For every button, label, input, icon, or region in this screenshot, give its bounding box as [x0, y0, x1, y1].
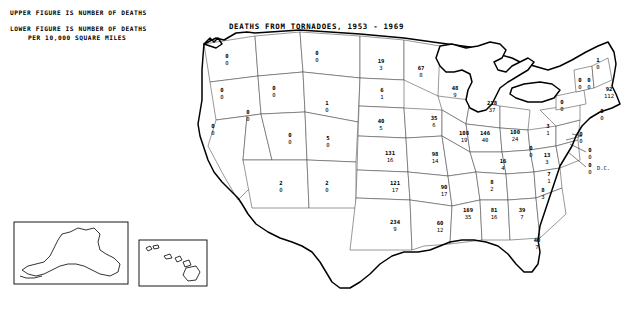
deaths-per-area-value: 5 [379, 125, 382, 131]
deaths-value: 16 [500, 158, 507, 164]
deaths-value: 2 [279, 180, 282, 186]
deaths-value: 108 [459, 130, 470, 136]
deaths-per-area-value: 6 [432, 122, 435, 128]
deaths-value: 100 [510, 129, 521, 135]
deaths-value: 35 [431, 115, 438, 121]
deaths-per-area-value: 12 [437, 227, 444, 233]
deaths-per-area-value: 2 [490, 186, 493, 192]
deaths-per-area-value: 0 [600, 115, 603, 121]
deaths-per-area-value: 19 [461, 137, 468, 143]
state-label-ct: 00 [600, 108, 604, 121]
state-label-ar: 9017 [441, 184, 448, 197]
deaths-per-area-value: 0 [220, 94, 223, 100]
deaths-per-area-value: 0 [560, 106, 563, 112]
deaths-per-area-value: 1 [546, 130, 549, 136]
deaths-value: 7 [547, 171, 550, 177]
deaths-per-area-value: 0 [579, 138, 582, 144]
dc-label: D.C. [597, 165, 610, 171]
deaths-per-area-value: 0 [325, 187, 328, 193]
deaths-value: 67 [418, 65, 425, 71]
deaths-per-area-value: 0 [272, 92, 275, 98]
deaths-value: 0 [588, 147, 592, 153]
deaths-per-area-value: 0 [596, 64, 599, 70]
deaths-per-area-value: 0 [326, 142, 329, 148]
deaths-value: 234 [390, 219, 401, 225]
deaths-per-area-value: 0 [325, 107, 328, 113]
state-label-mo: 9814 [432, 151, 439, 164]
deaths-per-area-value: 0 [588, 169, 591, 175]
deaths-per-area-value: 3 [545, 159, 548, 165]
deaths-value: 98 [432, 151, 439, 157]
map-svg: 0000000000001000202050193614051311612117… [0, 0, 633, 310]
state-label-wi: 489 [452, 85, 459, 98]
deaths-value: 40 [534, 237, 541, 243]
deaths-value: 169 [463, 207, 474, 213]
deaths-per-area-value: 0 [211, 130, 214, 136]
alaska-inset [14, 222, 128, 284]
deaths-per-area-value: 0 [588, 154, 591, 160]
deaths-per-area-value: 16 [491, 214, 498, 220]
deaths-per-area-value: 37 [489, 107, 496, 113]
deaths-per-area-value: 3 [379, 65, 382, 71]
deaths-value: 5 [326, 135, 329, 141]
deaths-value: 19 [378, 58, 385, 64]
deaths-per-area-value: 0 [587, 84, 590, 90]
deaths-per-area-value: 14 [432, 158, 439, 164]
deaths-per-area-value: 24 [512, 136, 519, 142]
deaths-per-area-value: 7 [535, 244, 538, 250]
state-label-la: 6012 [437, 220, 444, 233]
deaths-value: 0 [588, 162, 592, 168]
deaths-value: 90 [441, 184, 448, 190]
deaths-per-area-value: 112 [604, 93, 614, 99]
state-label-az: 20 [279, 180, 282, 193]
deaths-per-area-value: 35 [465, 214, 472, 220]
state-label-de: 00 [588, 147, 592, 160]
deaths-per-area-value: 40 [482, 137, 489, 143]
deaths-per-area-value: 0 [288, 139, 291, 145]
state-label-al: 8116 [491, 207, 498, 220]
deaths-per-area-value: 3 [541, 194, 544, 200]
state-boundaries [204, 32, 612, 250]
deaths-value: 40 [378, 118, 385, 124]
deaths-per-area-value: 1 [380, 94, 383, 100]
deaths-value: 48 [452, 85, 459, 91]
state-label-nm: 20 [325, 180, 328, 193]
deaths-per-area-value: 0 [279, 187, 282, 193]
deaths-value: 13 [544, 152, 551, 158]
deaths-value: 81 [491, 207, 498, 213]
hawaii-inset [139, 240, 207, 286]
state-label-pa: 31 [546, 123, 549, 136]
deaths-value: 218 [487, 100, 498, 106]
deaths-per-area-value: 9 [393, 226, 396, 232]
deaths-value: 3 [546, 123, 549, 129]
deaths-per-area-value: 0 [246, 116, 249, 122]
state-label-nj: 00 [579, 131, 583, 144]
deaths-value: 121 [390, 180, 401, 186]
state-label-md: 00 [588, 162, 592, 175]
deaths-per-area-value: 7 [520, 214, 523, 220]
deaths-value: 39 [519, 207, 526, 213]
deaths-per-area-value: 0 [578, 84, 581, 90]
deaths-value: 131 [385, 150, 396, 156]
deaths-per-area-value: 16 [387, 157, 394, 163]
deaths-per-area-value: 17 [441, 191, 448, 197]
deaths-value: 2 [325, 180, 328, 186]
deaths-per-area-value: 0 [225, 60, 228, 66]
deaths-per-area-value: 0 [529, 152, 532, 158]
state-label-nc: 71 [547, 171, 550, 184]
deaths-per-area-value: 17 [392, 187, 399, 193]
deaths-per-area-value: 1 [547, 178, 550, 184]
deaths-value: 60 [437, 220, 444, 226]
us-tornado-deaths-map: 0000000000001000202050193614051311612117… [0, 0, 633, 310]
deaths-value: 146 [480, 130, 491, 136]
deaths-per-area-value: 0 [315, 57, 318, 63]
state-label-co: 50 [326, 135, 329, 148]
deaths-value: 92 [606, 86, 613, 92]
deaths-per-area-value: 9 [453, 92, 456, 98]
